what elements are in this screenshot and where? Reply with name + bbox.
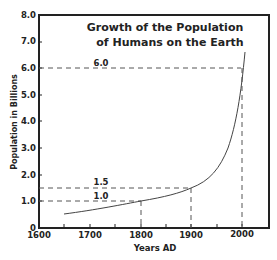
x-tick-label: 1700 bbox=[78, 230, 102, 240]
x-tick-label: 1900 bbox=[179, 230, 203, 240]
population-growth-chart: Growth of the Population of Humans on th… bbox=[0, 0, 277, 260]
annotation-1-0: 1.0 bbox=[93, 191, 108, 201]
y-tick-label: 3.0 bbox=[21, 143, 36, 153]
annotation-1-5: 1.5 bbox=[93, 177, 108, 187]
x-tick-label: 1600 bbox=[27, 230, 51, 240]
x-tick-label: 1800 bbox=[129, 230, 153, 240]
y-tick-label: 6.0 bbox=[21, 63, 36, 73]
chart-title-line-1: Growth of the Population bbox=[87, 21, 244, 34]
x-axis-label: Years AD bbox=[133, 243, 177, 253]
y-tick-label: 2.0 bbox=[21, 170, 36, 180]
y-tick-label: 8.0 bbox=[21, 10, 36, 20]
x-axis: 1600 1700 1800 1900 2000 bbox=[27, 224, 254, 240]
y-tick-label: 5.0 bbox=[21, 90, 36, 100]
y-axis-label: Population in Billions bbox=[10, 74, 19, 170]
reference-lines bbox=[39, 68, 242, 228]
y-tick-label: 4.0 bbox=[21, 116, 36, 126]
annotation-6-0: 6.0 bbox=[93, 58, 108, 68]
y-tick-label: 1.0 bbox=[21, 196, 36, 206]
x-tick-label: 2000 bbox=[230, 229, 254, 239]
population-curve bbox=[64, 52, 245, 214]
y-tick-label: 7.0 bbox=[21, 36, 36, 46]
chart-title-line-2: of Humans on the Earth bbox=[96, 36, 243, 49]
